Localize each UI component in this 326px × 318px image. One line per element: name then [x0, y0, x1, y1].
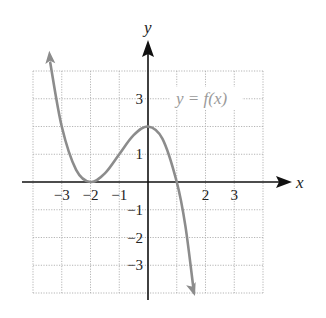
curve-label: y = f(x)	[174, 89, 227, 108]
x-tick-label: −1	[111, 187, 127, 203]
y-axis-label: y	[142, 18, 152, 37]
function-graph: x y −3−2−12331−1−2−3 y = f(x)	[0, 0, 326, 318]
axes: x y	[22, 18, 304, 300]
y-tick-label: 3	[136, 91, 144, 107]
y-tick-label: 1	[136, 146, 144, 162]
curve-arrow-down-icon	[186, 282, 195, 296]
x-tick-label: −3	[54, 187, 70, 203]
x-tick-label: −2	[83, 187, 99, 203]
y-tick-label: −2	[127, 230, 143, 246]
y-tick-label: −3	[127, 257, 143, 273]
x-tick-label: 3	[231, 187, 239, 203]
x-axis-label: x	[295, 173, 304, 192]
x-tick-label: 2	[202, 187, 210, 203]
y-tick-label: −1	[127, 202, 143, 218]
